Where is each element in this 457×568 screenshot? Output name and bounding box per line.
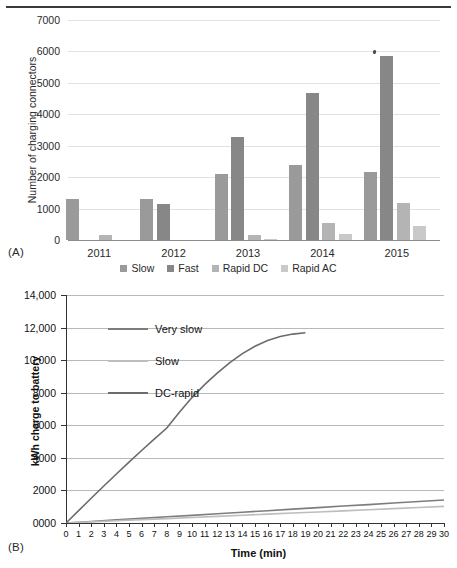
chart-b-x-tickmark xyxy=(242,523,243,527)
chart-b-x-tick: 18 xyxy=(288,529,298,539)
chart-a-y-tick: 1000 xyxy=(37,203,60,215)
chart-b-series-line xyxy=(66,333,305,523)
chart-a-legend-item[interactable]: Slow xyxy=(120,262,154,274)
chart-a-gridline xyxy=(68,20,440,21)
chart-b-x-tickmark xyxy=(116,523,117,527)
line-chart-panel-b: kWh charge to battery 000020004000600080… xyxy=(0,285,457,568)
chart-b-x-tickmark xyxy=(255,523,256,527)
chart-a-bar xyxy=(322,223,335,240)
legend-swatch-icon xyxy=(167,265,174,272)
chart-b-x-tick: 3 xyxy=(101,529,106,539)
legend-swatch-icon xyxy=(120,265,127,272)
chart-a-x-tick: 2011 xyxy=(87,247,111,259)
chart-b-x-axis-label: Time (min) xyxy=(30,547,457,559)
chart-a-legend: SlowFastRapid DCRapid AC xyxy=(0,262,457,274)
chart-b-series-line xyxy=(66,500,444,523)
chart-b-legend-item[interactable]: Slow xyxy=(108,355,179,367)
chart-b-x-tick: 7 xyxy=(152,529,157,539)
chart-b-x-tickmark xyxy=(331,523,332,527)
chart-a-bar xyxy=(306,93,319,240)
chart-b-x-tick: 0 xyxy=(63,529,68,539)
legend-swatch-icon xyxy=(212,265,219,272)
chart-b-x-tick: 4 xyxy=(114,529,119,539)
chart-b-x-tickmark xyxy=(192,523,193,527)
chart-b-x-tick: 23 xyxy=(351,529,361,539)
chart-a-legend-label: Slow xyxy=(131,262,154,274)
chart-b-x-tick: 19 xyxy=(300,529,310,539)
chart-a-y-tick: 5000 xyxy=(37,77,60,89)
chart-b-x-tick: 15 xyxy=(250,529,260,539)
chart-b-x-tick: 29 xyxy=(426,529,436,539)
chart-a-y-tick: 3000 xyxy=(37,140,60,152)
chart-a-legend-item[interactable]: Rapid AC xyxy=(281,262,336,274)
chart-b-y-tick: 14,000 xyxy=(24,289,56,301)
chart-a-bar xyxy=(380,56,393,240)
chart-a-gridline xyxy=(68,240,440,241)
chart-b-x-tickmark xyxy=(318,523,319,527)
chart-b-x-tick: 11 xyxy=(200,529,209,539)
chart-b-x-tickmark xyxy=(230,523,231,527)
chart-b-x-tickmark xyxy=(394,523,395,527)
chart-b-x-tick: 17 xyxy=(275,529,285,539)
chart-b-y-tick: 2000 xyxy=(33,484,56,496)
chart-b-x-tickmark xyxy=(293,523,294,527)
chart-b-x-tickmark xyxy=(343,523,344,527)
chart-b-x-tickmark xyxy=(167,523,168,527)
chart-a-y-tick: 4000 xyxy=(37,108,60,120)
chart-a-x-tick: 2012 xyxy=(161,247,185,259)
chart-b-x-tick: 13 xyxy=(225,529,235,539)
chart-a-y-tick: 7000 xyxy=(37,14,60,26)
chart-a-bar xyxy=(248,235,261,240)
chart-b-plot-area: 0000200040006000800010,00012,00014,00001… xyxy=(66,295,444,523)
chart-a-y-tick: 0 xyxy=(54,234,60,246)
chart-a-legend-label: Fast xyxy=(178,262,198,274)
chart-a-legend-label: Rapid AC xyxy=(292,262,336,274)
chart-b-y-tick: 12,000 xyxy=(24,322,56,334)
chart-a-bar xyxy=(231,137,244,240)
chart-b-legend-item[interactable]: Very slow xyxy=(108,323,202,335)
chart-a-y-tick: 6000 xyxy=(37,45,60,57)
chart-a-y-axis-label: Number of charging connectors xyxy=(26,30,38,230)
chart-b-x-tick: 9 xyxy=(177,529,182,539)
chart-b-legend-label: DC-rapid xyxy=(155,387,199,399)
chart-b-x-tick: 14 xyxy=(237,529,247,539)
legend-line-icon xyxy=(108,392,148,394)
chart-a-bar xyxy=(289,165,302,240)
chart-b-x-tickmark xyxy=(91,523,92,527)
chart-a-bar xyxy=(140,199,153,240)
chart-b-x-tickmark xyxy=(406,523,407,527)
chart-b-x-tickmark xyxy=(217,523,218,527)
scan-speck-artifact xyxy=(372,50,376,55)
chart-a-legend-item[interactable]: Fast xyxy=(167,262,198,274)
chart-b-series-line xyxy=(66,506,444,523)
chart-b-legend-item[interactable]: DC-rapid xyxy=(108,387,199,399)
chart-b-x-tickmark xyxy=(444,523,445,527)
chart-a-bar xyxy=(157,204,170,240)
chart-b-legend-label: Very slow xyxy=(155,323,202,335)
chart-b-x-tickmark xyxy=(205,523,206,527)
chart-a-bar xyxy=(264,239,277,240)
top-divider-rule xyxy=(6,6,451,8)
chart-b-x-tickmark xyxy=(356,523,357,527)
chart-a-x-tick: 2013 xyxy=(236,247,260,259)
chart-b-x-tickmark xyxy=(66,523,67,527)
chart-b-x-tick: 22 xyxy=(338,529,348,539)
panel-a-tag: (A) xyxy=(8,246,24,258)
chart-b-x-tick: 20 xyxy=(313,529,323,539)
chart-a-bar xyxy=(215,174,228,240)
chart-b-x-tickmark xyxy=(179,523,180,527)
chart-b-x-tickmark xyxy=(79,523,80,527)
chart-a-bar xyxy=(99,235,112,240)
chart-a-plot-area: 0100020003000400050006000700020112012201… xyxy=(68,20,440,240)
chart-b-x-tickmark xyxy=(268,523,269,527)
chart-b-x-tick: 6 xyxy=(139,529,144,539)
chart-a-legend-item[interactable]: Rapid DC xyxy=(212,262,269,274)
chart-b-y-tick: 0000 xyxy=(33,517,56,529)
chart-b-x-tickmark xyxy=(104,523,105,527)
chart-b-x-tick: 12 xyxy=(212,529,222,539)
chart-b-x-tickmark xyxy=(419,523,420,527)
chart-b-y-tick: 6000 xyxy=(33,419,56,431)
chart-b-x-tick: 25 xyxy=(376,529,386,539)
chart-b-x-tickmark xyxy=(431,523,432,527)
chart-b-x-tick: 30 xyxy=(439,529,449,539)
